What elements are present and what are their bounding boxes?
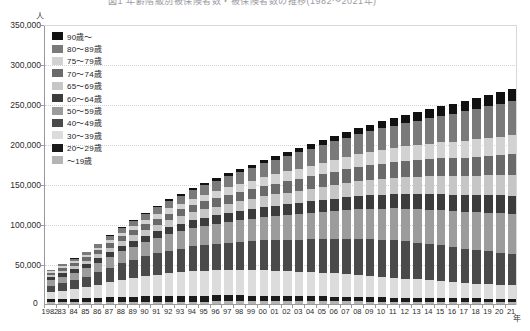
- bar-segment: [141, 276, 150, 296]
- bar-segment: [236, 172, 245, 184]
- bar-segment: [260, 196, 269, 207]
- bar-segment: [342, 274, 351, 297]
- bar-segment: [366, 131, 375, 152]
- legend-item-label: 80～89歳: [67, 43, 102, 54]
- bar-segment: [200, 271, 209, 296]
- bar-segment: [484, 302, 493, 304]
- x-axis-tick-label: 05: [318, 307, 326, 316]
- bar-segment: [307, 272, 316, 296]
- bar-segment: [461, 302, 470, 304]
- bar-segment: [236, 270, 245, 296]
- bar-segment: [248, 219, 257, 241]
- y-axis-tick-labels: 50,000100,000150,000200,000250,000300,00…: [0, 0, 41, 331]
- bar-segment: [496, 155, 505, 175]
- bar-segment: [484, 175, 493, 195]
- bar-segment: [118, 302, 127, 304]
- bar-segment: [449, 282, 458, 298]
- legend-item[interactable]: 70～74歳: [52, 67, 102, 79]
- bar-column: [449, 24, 458, 304]
- legend-item[interactable]: 30～39歳: [52, 129, 102, 141]
- bar-segment: [189, 220, 198, 228]
- bar-segment: [413, 177, 422, 194]
- legend-item[interactable]: 65～69歳: [52, 80, 102, 92]
- x-axis-tick-label: 18: [471, 307, 479, 316]
- bar-segment: [189, 190, 198, 199]
- bar-segment: [47, 292, 56, 299]
- bar-segment: [461, 195, 470, 212]
- bar-segment: [437, 106, 446, 115]
- bar-segment: [283, 271, 292, 296]
- bar-segment: [70, 302, 79, 304]
- bar-segment: [484, 95, 493, 106]
- x-axis-tick-label: 03: [294, 307, 302, 316]
- bar-segment: [354, 134, 363, 154]
- legend-item-label: 50～59歳: [67, 105, 102, 116]
- legend-item[interactable]: 75～79歳: [52, 55, 102, 67]
- bar-segment: [260, 270, 269, 296]
- bar-segment: [354, 181, 363, 196]
- bar-segment: [330, 172, 339, 185]
- x-axis-tick-label: 15: [436, 307, 444, 316]
- bar-segment: [366, 180, 375, 195]
- bar-segment: [295, 203, 304, 214]
- bar-segment: [307, 201, 316, 213]
- bar-segment: [141, 256, 150, 276]
- x-axis-tick-label: 19: [483, 307, 491, 316]
- bar-segment: [378, 150, 387, 164]
- bar-series-container: [45, 25, 517, 304]
- legend-item[interactable]: 80～89歳: [52, 42, 102, 54]
- legend-item[interactable]: 60～64歳: [52, 92, 102, 104]
- bar-segment: [508, 175, 517, 196]
- bar-segment: [271, 216, 280, 240]
- bar-segment: [413, 160, 422, 177]
- bar-segment: [236, 192, 245, 201]
- bar-segment: [378, 179, 387, 195]
- bar-segment: [236, 211, 245, 220]
- y-axis-tick-mark: [41, 65, 44, 66]
- bar-segment: [248, 270, 257, 296]
- bar-segment: [177, 302, 186, 304]
- bar-segment: [484, 156, 493, 176]
- bar-segment: [189, 271, 198, 295]
- bar-segment: [401, 279, 410, 298]
- bar-segment: [461, 249, 470, 283]
- bar-segment: [390, 208, 399, 240]
- bar-segment: [354, 301, 363, 304]
- legend-item[interactable]: 20～29歳: [52, 142, 102, 154]
- bar-segment: [390, 178, 399, 194]
- legend-item[interactable]: 50～59歳: [52, 104, 102, 116]
- bar-segment: [319, 239, 328, 273]
- bar-segment: [224, 187, 233, 194]
- bar-segment: [224, 213, 233, 222]
- bar-segment: [94, 285, 103, 298]
- legend-item[interactable]: ～19歳: [52, 154, 102, 166]
- bar-segment: [437, 142, 446, 158]
- bar-segment: [508, 254, 517, 285]
- bar-segment: [378, 195, 387, 209]
- y-axis-tick-label: 250,000: [0, 100, 41, 110]
- bar-segment: [484, 106, 493, 138]
- bar-segment: [295, 301, 304, 304]
- bar-segment: [401, 194, 410, 209]
- bar-segment: [271, 271, 280, 296]
- bar-column: [283, 24, 292, 304]
- x-axis-tick-label: 21: [507, 307, 515, 316]
- bar-segment: [425, 144, 434, 160]
- bar-segment: [248, 181, 257, 189]
- legend-item-label: 90歳～: [67, 31, 93, 42]
- bar-segment: [295, 191, 304, 203]
- bar-segment: [295, 169, 304, 179]
- bar-segment: [401, 146, 410, 161]
- bar-segment: [484, 138, 493, 156]
- legend-item[interactable]: 40～49歳: [52, 117, 102, 129]
- bar-segment: [319, 200, 328, 212]
- y-axis-tick-label: 300,000: [0, 60, 41, 70]
- legend-item-label: 75～79歳: [67, 55, 102, 66]
- bar-segment: [212, 181, 221, 192]
- bar-column: [413, 24, 422, 304]
- bar-segment: [260, 301, 269, 304]
- bar-column: [141, 24, 150, 304]
- legend-item[interactable]: 90歳～: [52, 30, 102, 42]
- bar-segment: [212, 191, 221, 198]
- x-axis-tick-label: 00: [259, 307, 267, 316]
